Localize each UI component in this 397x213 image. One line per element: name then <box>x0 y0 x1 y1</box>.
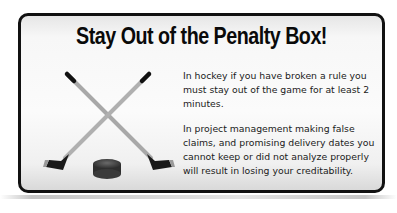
penalty-box-card: Stay Out of the Penalty Box! <box>18 13 385 193</box>
hockey-puck-icon <box>93 159 121 179</box>
project-management-paragraph: In project management making false claim… <box>183 122 378 178</box>
card-title: Stay Out of the Penalty Box! <box>53 22 349 50</box>
hockey-stick-icon <box>67 74 175 170</box>
card-body: In hockey if you have broken a rule you … <box>183 69 378 189</box>
card-shadow <box>0 195 397 199</box>
hockey-rule-paragraph: In hockey if you have broken a rule you … <box>183 69 378 111</box>
hockey-stick-icon <box>43 74 149 170</box>
crossed-hockey-sticks-illustration <box>41 66 181 186</box>
